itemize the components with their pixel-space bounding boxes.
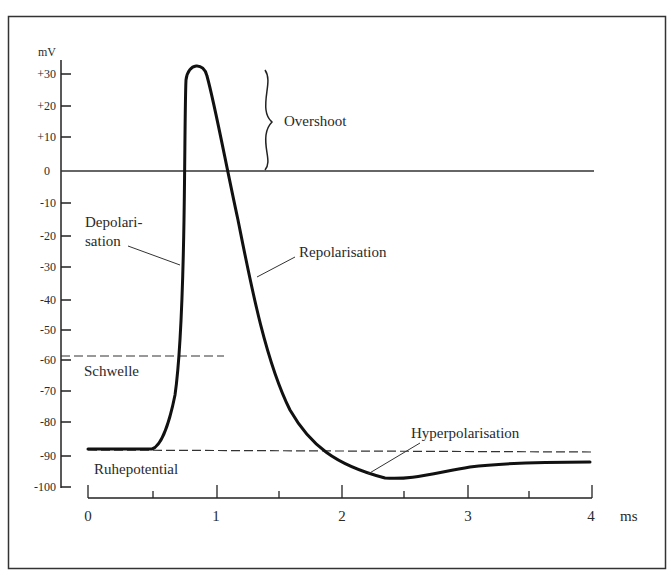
hyperpolarisation-label: Hyperpolarisation	[411, 425, 520, 441]
y-tick-label: +30	[37, 67, 56, 81]
resting-potential-label: Ruhepotential	[94, 461, 178, 477]
x-tick-label: 1	[212, 508, 220, 524]
y-tick-label: -60	[40, 353, 56, 367]
y-tick-label: -80	[40, 415, 56, 429]
y-tick-label: -50	[40, 323, 56, 337]
y-tick-label: -70	[40, 384, 56, 398]
chart-frame	[9, 17, 666, 569]
y-tick-label: -10	[40, 196, 56, 210]
overshoot-brace-icon	[265, 70, 272, 170]
y-tick-label: +20	[37, 99, 56, 113]
x-ticks: 0 1 2 3 4 ms	[84, 485, 637, 524]
threshold-label: Schwelle	[84, 363, 139, 379]
y-tick-label: -40	[40, 293, 56, 307]
y-tick-label: -20	[40, 229, 56, 243]
x-axis-unit: ms	[620, 508, 638, 524]
repolarisation-leader-line	[257, 257, 295, 277]
y-tick-label: -30	[40, 260, 56, 274]
depolarisation-label-line1: Depolari-	[85, 214, 142, 230]
x-tick-label: 2	[338, 508, 346, 524]
y-tick-label: +10	[37, 130, 56, 144]
y-tick-label: -100	[34, 480, 56, 494]
depolarisation-label-line2: sation	[85, 233, 121, 249]
y-tick-label: 0	[44, 164, 50, 178]
x-tick-label: 0	[84, 508, 92, 524]
y-ticks: +30 +20 +10 0 -10 -20 -30 -40 -50 -60 -7…	[34, 67, 71, 494]
action-potential-chart: mV +30 +20 +10 0 -10 -20 -30 -40 -50 -60…	[0, 0, 671, 582]
repolarisation-label: Repolarisation	[299, 244, 387, 260]
x-tick-label: 4	[587, 508, 595, 524]
resting-potential-line	[88, 450, 592, 452]
hyperpolarisation-leader-line	[368, 443, 420, 474]
depolarisation-leader-line	[128, 246, 180, 265]
overshoot-label: Overshoot	[284, 113, 347, 129]
y-axis-unit: mV	[38, 45, 56, 59]
y-tick-label: -90	[40, 449, 56, 463]
x-tick-label: 3	[464, 508, 472, 524]
